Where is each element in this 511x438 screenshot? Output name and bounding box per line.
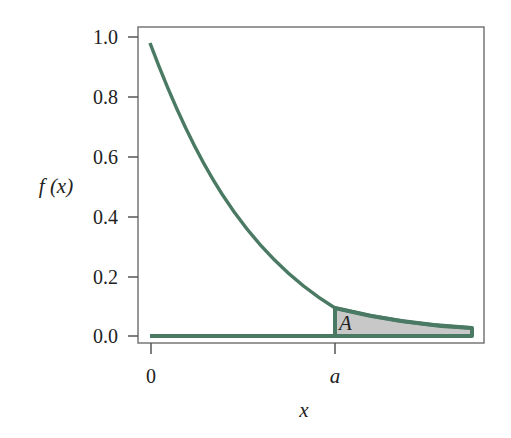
svg-text:0.6: 0.6	[93, 146, 118, 168]
density-curve	[150, 43, 472, 328]
y-axis-label: f (x)	[39, 174, 73, 198]
svg-text:0.0: 0.0	[93, 325, 118, 347]
x-tick-0: 0	[146, 365, 156, 387]
x-tick-a: a	[330, 364, 341, 388]
svg-text:0.8: 0.8	[93, 86, 118, 108]
x-axis-ticks	[151, 343, 335, 354]
y-tick-labels: 1.0 0.8 0.6 0.4 0.2 0.0	[93, 26, 118, 347]
svg-text:1.0: 1.0	[93, 26, 118, 48]
svg-text:0.4: 0.4	[93, 206, 118, 228]
y-axis-ticks	[128, 37, 138, 336]
area-label: A	[337, 311, 352, 335]
svg-text:0.2: 0.2	[93, 266, 118, 288]
exponential-density-chart: 1.0 0.8 0.6 0.4 0.2 0.0 0 a x f (x) A	[0, 0, 511, 438]
plot-frame	[138, 27, 484, 343]
x-axis-label: x	[298, 398, 309, 422]
